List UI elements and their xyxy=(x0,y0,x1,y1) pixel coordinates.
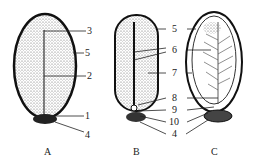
label-8: 8 xyxy=(172,93,177,103)
label-a-2: 2 xyxy=(87,71,92,81)
label-7: 7 xyxy=(172,68,177,78)
label-9: 9 xyxy=(172,105,177,115)
seed-a xyxy=(14,14,86,132)
label-a-3: 3 xyxy=(87,26,92,36)
label-a-1: 1 xyxy=(85,111,90,121)
seed-c xyxy=(186,12,242,134)
label-6: 6 xyxy=(172,45,177,55)
label-5: 5 xyxy=(172,24,177,34)
label-a-5: 5 xyxy=(85,48,90,58)
seed-b xyxy=(115,15,166,134)
caption-a: A xyxy=(44,146,51,157)
label-a-4: 4 xyxy=(85,130,90,140)
caption-b: B xyxy=(133,146,140,157)
seed-diagram xyxy=(0,0,259,165)
label-4: 4 xyxy=(172,129,177,139)
label-10: 10 xyxy=(169,117,179,127)
caption-c: C xyxy=(211,146,218,157)
